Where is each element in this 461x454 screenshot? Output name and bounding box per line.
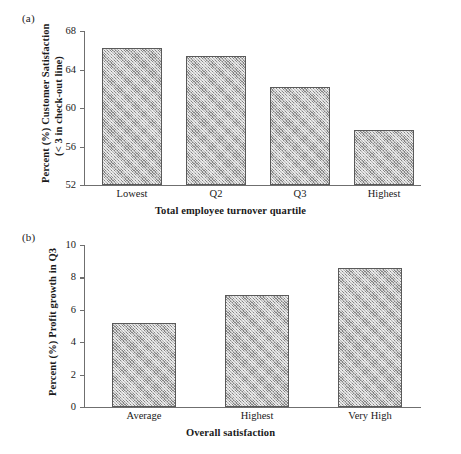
panel-a-yticklabel-52: 52 <box>54 179 76 190</box>
panel-a: (a) Percent (%) Customer Satisfaction (<… <box>0 0 461 227</box>
panel-b: (b) Percent (%) Profit growth in Q3 10 8… <box>0 225 461 454</box>
panel-a-ytick-52 <box>80 185 84 186</box>
panel-a-yticklabel-64: 64 <box>54 64 76 75</box>
panel-b-xlabel-very-high: Very High <box>338 410 402 421</box>
panel-a-yticklabel-60: 60 <box>54 102 76 113</box>
panel-b-yticklabel-0: 0 <box>52 401 76 412</box>
panel-b-bar-very-high <box>338 268 402 407</box>
panel-b-yticklabel-4: 4 <box>52 336 76 347</box>
panel-a-ytick-68 <box>80 31 84 32</box>
panel-b-ytick-2 <box>80 375 84 376</box>
panel-b-bar-highest <box>225 295 289 407</box>
panel-a-bar-lowest <box>102 48 162 185</box>
panel-b-bar-average <box>112 323 176 407</box>
panel-b-xlabel-highest: Highest <box>225 410 289 421</box>
panel-a-y-axis-line <box>84 31 85 185</box>
panel-a-bar-q2 <box>186 56 246 185</box>
panel-a-yticklabel-56: 56 <box>54 141 76 152</box>
panel-a-ytick-60 <box>80 108 84 109</box>
panel-a-bar-q3 <box>270 87 330 185</box>
panel-b-yticklabel-8: 8 <box>52 271 76 282</box>
panel-a-xlabel-q2: Q2 <box>186 188 246 199</box>
panel-a-yticklabel-68: 68 <box>54 25 76 36</box>
panel-a-plot-area: 68 64 60 56 52 Lowest Q2 Q3 Highest <box>0 0 461 200</box>
panel-b-yticklabel-2: 2 <box>52 369 76 380</box>
panel-a-xlabel-highest: Highest <box>354 188 414 199</box>
panel-b-y-axis-line <box>84 245 85 407</box>
panel-a-bar-highest <box>354 130 414 186</box>
panel-b-x-axis-title: Overall satisfaction <box>0 427 461 438</box>
panel-a-ytick-64 <box>80 70 84 71</box>
panel-b-plot-area: 10 8 6 4 2 0 Average Highest Very High <box>0 225 461 425</box>
panel-a-xlabel-lowest: Lowest <box>102 188 162 199</box>
panel-a-xlabel-q3: Q3 <box>270 188 330 199</box>
panel-b-ytick-6 <box>80 310 84 311</box>
panel-b-yticklabel-6: 6 <box>52 304 76 315</box>
panel-b-yticklabel-10: 10 <box>52 239 76 250</box>
panel-b-ytick-0 <box>80 407 84 408</box>
panel-a-ytick-56 <box>80 147 84 148</box>
panel-b-ytick-10 <box>80 245 84 246</box>
panel-b-ytick-4 <box>80 342 84 343</box>
panel-b-xlabel-average: Average <box>112 410 176 421</box>
panel-a-x-axis-title: Total employee turnover quartile <box>0 205 461 216</box>
panel-b-ytick-8 <box>80 277 84 278</box>
